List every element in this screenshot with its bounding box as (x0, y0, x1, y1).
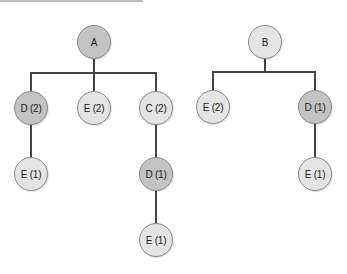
edge-b-d1-e1 (314, 123, 316, 158)
edge-b-e2 (212, 71, 214, 91)
top-divider (0, 0, 143, 2)
node-a-e2: E (2) (77, 91, 111, 125)
node-a-c2: C (2) (139, 91, 173, 125)
edge-c2-d1 (155, 124, 157, 158)
edge-b-bar (212, 71, 316, 73)
edge-d1-e1 (155, 190, 157, 224)
edge-d2-e1 (30, 124, 32, 158)
node-a-d2: D (2) (14, 91, 48, 125)
node-b-root: B (248, 25, 282, 59)
node-a-c2-d1: D (1) (139, 157, 173, 191)
edge-a-c2 (155, 72, 157, 92)
edge-a-e2 (93, 72, 95, 92)
node-b-e2: E (2) (196, 90, 230, 124)
node-b-d1-e1: E (1) (298, 157, 332, 191)
node-a-c2-d1-e1: E (1) (139, 223, 173, 257)
edge-a-d2 (30, 72, 32, 92)
node-b-d1: D (1) (298, 90, 332, 124)
node-a-d2-e1: E (1) (14, 157, 48, 191)
node-a-root: A (77, 25, 111, 59)
edge-b-d1 (314, 71, 316, 91)
